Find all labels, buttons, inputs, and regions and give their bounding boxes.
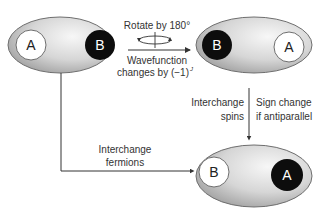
state-initial: A B: [8, 17, 115, 73]
rotate-label: Rotate by 180°: [124, 20, 190, 31]
sign-change-line1: Sign change: [256, 97, 312, 108]
sign-change-line2: if antiparallel: [256, 111, 312, 122]
fermions-arrow-group: Interchange fermions: [61, 73, 192, 171]
interchange-fermions-line1: Interchange: [99, 144, 152, 155]
particle-b-label: B: [95, 37, 104, 53]
interchange-spins-line1: Interchange: [191, 97, 244, 108]
state-interchanged: B A: [196, 145, 312, 207]
particle-b-label: B: [209, 164, 218, 180]
particle-a-label: A: [284, 39, 294, 55]
wavefunction-label: Wavefunction: [127, 55, 187, 66]
rotate-arrow-group: Rotate by 180° Wavefunction changes by (…: [117, 20, 194, 78]
particle-b-label: B: [212, 37, 221, 53]
interchange-fermions-line2: fermions: [106, 157, 144, 168]
state-rotated: B A: [196, 17, 312, 73]
exponent-j: J: [189, 66, 194, 72]
interchange-spins-line2: spins: [221, 111, 244, 122]
particle-a-label: A: [282, 167, 292, 183]
particle-a-label: A: [26, 37, 36, 53]
rotation-icon: [137, 32, 172, 48]
sign-factor-label: changes by (−1): [117, 67, 189, 78]
fermion-exchange-diagram: A B B A B A Rotate by 180° Wavefunction …: [0, 0, 329, 215]
spins-arrow-group: Interchange spins Sign change if antipar…: [191, 88, 312, 138]
